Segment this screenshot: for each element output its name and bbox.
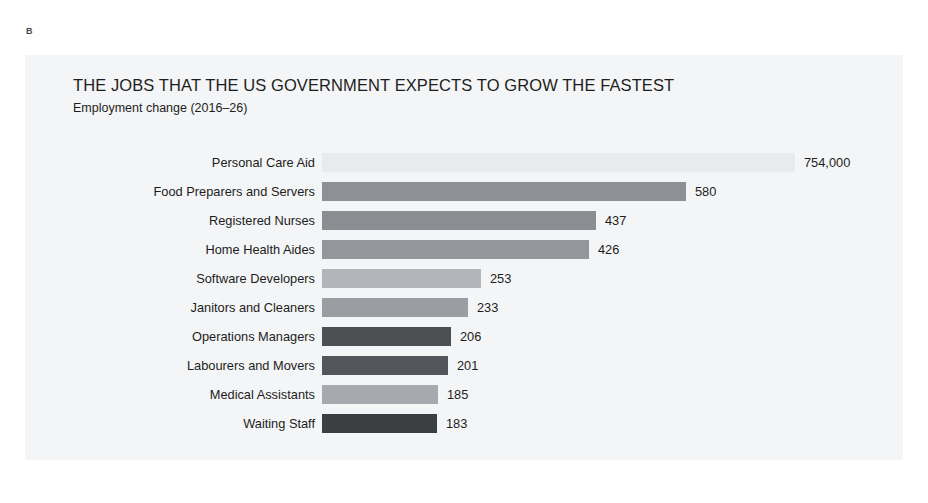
bar-track: 426 xyxy=(322,240,903,259)
bar xyxy=(322,356,448,375)
bar-value-label: 185 xyxy=(447,385,468,404)
bar-row: Operations Managers206 xyxy=(25,327,903,356)
bar-value-label: 206 xyxy=(460,327,481,346)
bar-category-label: Food Preparers and Servers xyxy=(25,182,315,201)
bar-category-label: Software Developers xyxy=(25,269,315,288)
bar-track: 206 xyxy=(322,327,903,346)
figure-letter: B xyxy=(26,26,33,36)
bar xyxy=(322,385,438,404)
bar-category-label: Janitors and Cleaners xyxy=(25,298,315,317)
bar-row: Medical Assistants185 xyxy=(25,385,903,414)
bar-track: 754,000 xyxy=(322,153,903,172)
bar-track: 253 xyxy=(322,269,903,288)
bar-row: Software Developers253 xyxy=(25,269,903,298)
bar-category-label: Medical Assistants xyxy=(25,385,315,404)
bar-row: Waiting Staff183 xyxy=(25,414,903,443)
bar-track: 201 xyxy=(322,356,903,375)
bar xyxy=(322,269,481,288)
bar xyxy=(322,327,451,346)
bar-track: 580 xyxy=(322,182,903,201)
bar-row: Registered Nurses437 xyxy=(25,211,903,240)
bar-chart-plot-area: Personal Care Aid754,000Food Preparers a… xyxy=(25,153,903,443)
bar xyxy=(322,298,468,317)
bar-track: 233 xyxy=(322,298,903,317)
bar-value-label: 183 xyxy=(446,414,467,433)
bar-track: 185 xyxy=(322,385,903,404)
bar-value-label: 437 xyxy=(605,211,626,230)
bar-value-label: 201 xyxy=(457,356,478,375)
bar-category-label: Labourers and Movers xyxy=(25,356,315,375)
bar-row: Food Preparers and Servers580 xyxy=(25,182,903,211)
bar-value-label: 426 xyxy=(598,240,619,259)
chart-subtitle: Employment change (2016–26) xyxy=(73,101,247,115)
bar xyxy=(322,153,795,172)
bar-category-label: Operations Managers xyxy=(25,327,315,346)
bar-value-label: 233 xyxy=(477,298,498,317)
bar-category-label: Personal Care Aid xyxy=(25,153,315,172)
bar xyxy=(322,240,589,259)
bar-row: Labourers and Movers201 xyxy=(25,356,903,385)
bar-row: Home Health Aides426 xyxy=(25,240,903,269)
bar xyxy=(322,182,686,201)
bar-value-label: 253 xyxy=(490,269,511,288)
bar-value-label: 580 xyxy=(695,182,716,201)
chart-panel: THE JOBS THAT THE US GOVERNMENT EXPECTS … xyxy=(25,55,903,460)
chart-title: THE JOBS THAT THE US GOVERNMENT EXPECTS … xyxy=(73,76,674,95)
bar xyxy=(322,211,596,230)
bar-value-label: 754,000 xyxy=(804,153,850,172)
bar-track: 437 xyxy=(322,211,903,230)
bar-row: Janitors and Cleaners233 xyxy=(25,298,903,327)
bar-track: 183 xyxy=(322,414,903,433)
bar-category-label: Waiting Staff xyxy=(25,414,315,433)
bar-category-label: Registered Nurses xyxy=(25,211,315,230)
bar-row: Personal Care Aid754,000 xyxy=(25,153,903,182)
bar-category-label: Home Health Aides xyxy=(25,240,315,259)
bar xyxy=(322,414,437,433)
chart-inner: THE JOBS THAT THE US GOVERNMENT EXPECTS … xyxy=(25,55,903,460)
